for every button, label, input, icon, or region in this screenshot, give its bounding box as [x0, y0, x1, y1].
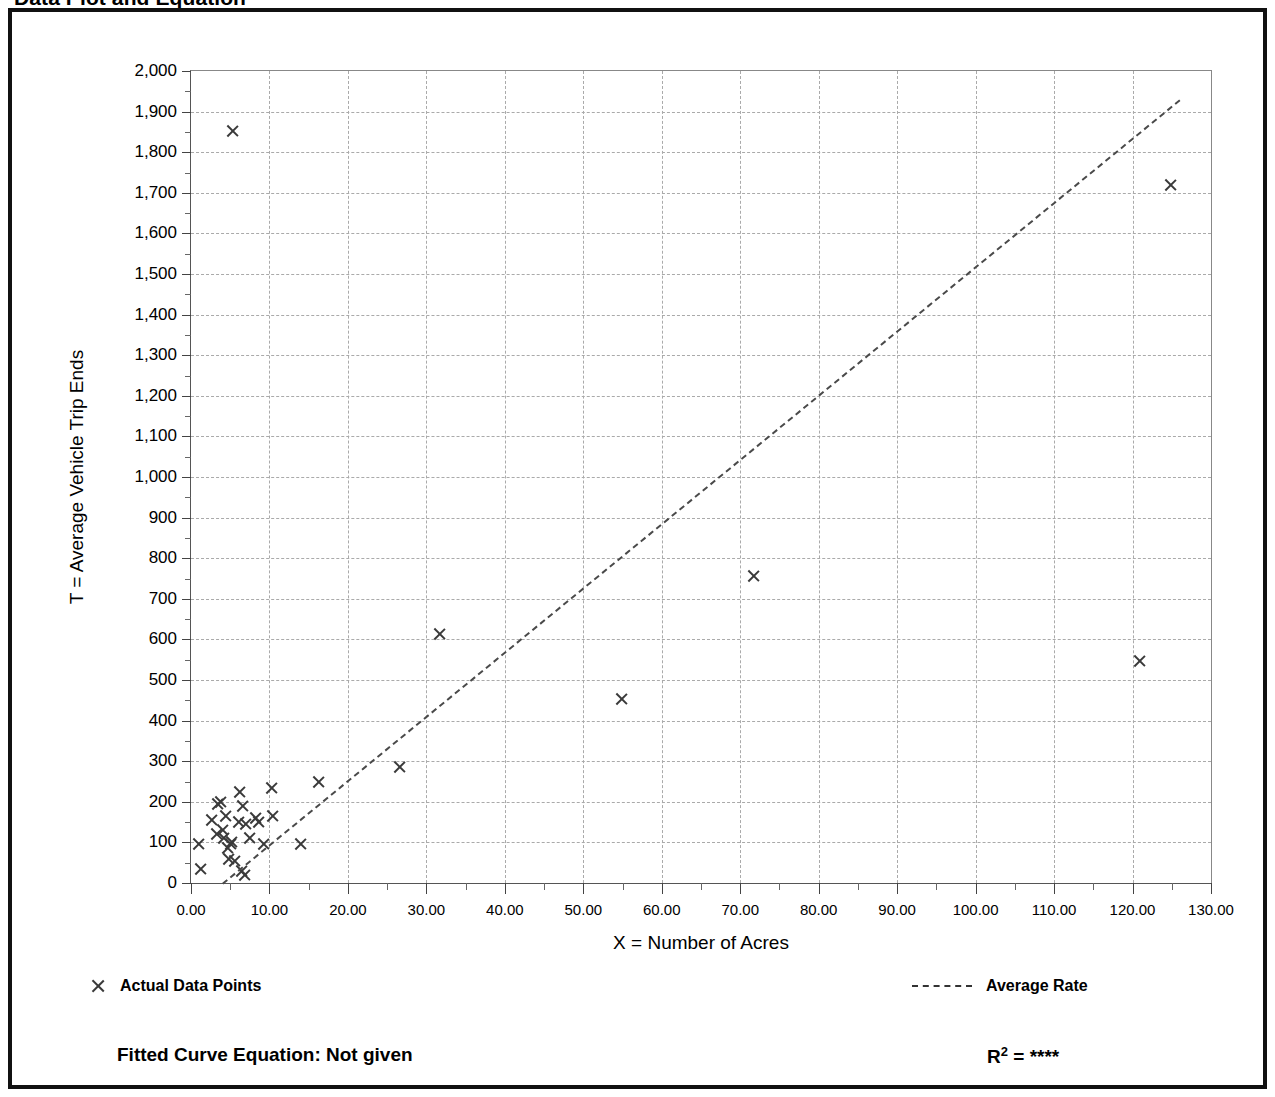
r-squared-value: R2 = ****	[987, 1044, 1059, 1068]
data-point-marker	[1163, 178, 1178, 193]
y-axis-minor-tick	[185, 213, 191, 214]
data-point-marker	[1132, 653, 1147, 668]
x-axis-tick	[1054, 883, 1055, 894]
data-point-marker	[191, 837, 206, 852]
data-point-marker	[231, 815, 246, 830]
data-point-marker	[264, 780, 279, 795]
gridline-vertical	[269, 71, 270, 883]
x-axis-title: X = Number of Acres	[190, 932, 1212, 954]
y-axis-tick-label: 1,700	[134, 183, 177, 203]
x-axis-tick-label: 20.00	[329, 901, 367, 918]
gridline-vertical	[897, 71, 898, 883]
y-axis-tick-label: 400	[149, 711, 177, 731]
equation-row: Fitted Curve Equation: Not given R2 = **…	[12, 1044, 1263, 1078]
y-axis-tick-label: 900	[149, 508, 177, 528]
r2-prefix: R	[987, 1046, 1001, 1067]
gridline-vertical	[819, 71, 820, 883]
gridline-horizontal	[191, 315, 1211, 316]
gridline-horizontal	[191, 112, 1211, 113]
data-point-marker	[232, 784, 247, 799]
gridline-horizontal	[191, 355, 1211, 356]
x-axis-tick	[269, 883, 270, 894]
r2-stars: ****	[1030, 1046, 1060, 1067]
x-axis-minor-tick	[466, 883, 467, 890]
y-axis-tick-label: 1,900	[134, 102, 177, 122]
gridline-horizontal	[191, 558, 1211, 559]
y-axis-tick-label: 1,600	[134, 223, 177, 243]
x-axis-tick-label: 70.00	[721, 901, 759, 918]
data-point-marker	[221, 851, 236, 866]
chart-panel: T = Average Vehicle Trip Ends 0100200300…	[8, 8, 1267, 1089]
data-point-marker	[248, 811, 263, 826]
data-point-marker	[311, 774, 326, 789]
gridline-horizontal	[191, 599, 1211, 600]
x-axis-tick	[426, 883, 427, 894]
gridline-horizontal	[191, 477, 1211, 478]
y-axis-title: T = Average Vehicle Trip Ends	[64, 70, 90, 884]
x-marker-icon	[90, 978, 106, 994]
data-point-marker	[193, 861, 208, 876]
y-axis-tick	[182, 680, 191, 681]
x-axis-tick	[583, 883, 584, 894]
y-axis-tick	[182, 193, 191, 194]
gridline-horizontal	[191, 193, 1211, 194]
y-axis-tick-label: 800	[149, 548, 177, 568]
data-point-marker	[210, 796, 225, 811]
data-point-marker	[225, 124, 240, 139]
y-axis-minor-tick	[185, 660, 191, 661]
y-axis-minor-tick	[185, 538, 191, 539]
y-axis-minor-tick	[185, 619, 191, 620]
x-axis-tick	[1211, 883, 1212, 894]
gridline-vertical	[976, 71, 977, 883]
x-axis-tick-label: 120.00	[1110, 901, 1156, 918]
y-axis-tick	[182, 315, 191, 316]
y-axis-minor-tick	[185, 497, 191, 498]
data-point-marker	[223, 837, 238, 852]
y-axis-tick-label: 1,400	[134, 305, 177, 325]
y-axis-tick	[182, 761, 191, 762]
y-axis-minor-tick	[185, 294, 191, 295]
data-point-marker	[216, 831, 231, 846]
y-axis-tick	[182, 274, 191, 275]
x-axis-minor-tick	[387, 883, 388, 890]
gridline-horizontal	[191, 152, 1211, 153]
y-axis-tick	[182, 71, 191, 72]
x-axis-tick-label: 130.00	[1188, 901, 1234, 918]
gridline-horizontal	[191, 436, 1211, 437]
y-axis-tick-label: 200	[149, 792, 177, 812]
x-axis-minor-tick	[1172, 883, 1173, 890]
y-axis-tick	[182, 883, 191, 884]
gridline-horizontal	[191, 518, 1211, 519]
x-axis-tick-label: 110.00	[1032, 901, 1077, 918]
x-axis-tick	[976, 883, 977, 894]
plot-area: 01002003004005006007008009001,0001,1001,…	[190, 70, 1212, 884]
gridline-vertical	[426, 71, 427, 883]
gridline-horizontal	[191, 680, 1211, 681]
y-axis-tick	[182, 558, 191, 559]
gridline-horizontal	[191, 802, 1211, 803]
y-axis-tick	[182, 477, 191, 478]
y-axis-tick	[182, 152, 191, 153]
y-axis-minor-tick	[185, 863, 191, 864]
y-axis-minor-tick	[185, 132, 191, 133]
y-axis-tick-label: 1,500	[134, 264, 177, 284]
x-axis-minor-tick	[779, 883, 780, 890]
x-axis-minor-tick	[1093, 883, 1094, 890]
y-axis-minor-tick	[185, 822, 191, 823]
r2-exponent: 2	[1001, 1044, 1008, 1059]
gridline-horizontal	[191, 761, 1211, 762]
y-axis-tick-label: 700	[149, 589, 177, 609]
data-point-marker	[238, 817, 253, 832]
y-axis-tick-label: 600	[149, 629, 177, 649]
fitted-curve-equation: Fitted Curve Equation: Not given	[117, 1044, 413, 1066]
y-axis-tick-label: 1,200	[134, 386, 177, 406]
legend-label-average-rate: Average Rate	[986, 977, 1088, 995]
gridline-vertical	[740, 71, 741, 883]
gridline-horizontal	[191, 233, 1211, 234]
y-axis-tick-label: 1,300	[134, 345, 177, 365]
x-axis-minor-tick	[936, 883, 937, 890]
x-axis-tick	[662, 883, 663, 894]
data-point-marker	[209, 827, 224, 842]
x-axis-minor-tick	[858, 883, 859, 890]
y-axis-tick	[182, 518, 191, 519]
